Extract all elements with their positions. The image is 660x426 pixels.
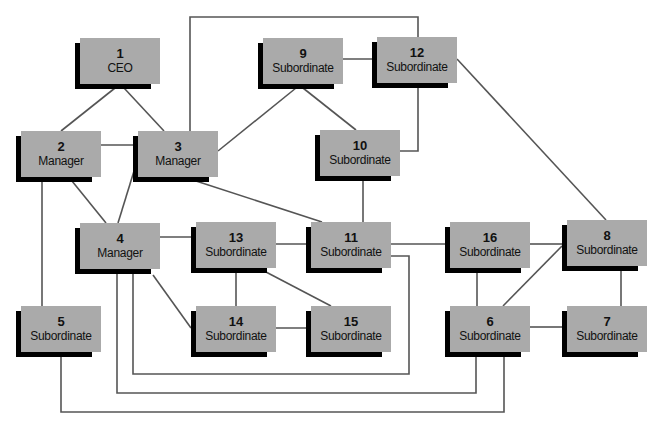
node-9: 9Subordinate bbox=[263, 38, 343, 84]
link-1-2 bbox=[61, 88, 115, 131]
node-box: 2Manager bbox=[21, 131, 101, 177]
node-box: 1CEO bbox=[80, 38, 160, 84]
node-role: Subordinate bbox=[329, 153, 390, 167]
node-16: 16Subordinate bbox=[450, 222, 530, 268]
node-number: 13 bbox=[229, 231, 243, 245]
node-box: 12Subordinate bbox=[377, 37, 457, 83]
node-14: 14Subordinate bbox=[196, 306, 276, 352]
node-4: 4Manager bbox=[80, 223, 160, 269]
node-role: Manager bbox=[38, 154, 83, 168]
node-box: 15Subordinate bbox=[311, 306, 391, 352]
link-2-4 bbox=[72, 181, 106, 223]
node-2: 2Manager bbox=[21, 131, 101, 177]
node-role: Subordinate bbox=[386, 60, 447, 74]
node-11: 11Subordinate bbox=[311, 222, 391, 268]
node-number: 3 bbox=[174, 140, 181, 154]
node-box: 5Subordinate bbox=[21, 306, 101, 352]
node-number: 14 bbox=[229, 315, 243, 329]
node-role: Subordinate bbox=[272, 61, 333, 75]
node-box: 10Subordinate bbox=[320, 130, 400, 176]
link-3-11 bbox=[196, 181, 322, 222]
node-number: 6 bbox=[486, 315, 493, 329]
node-role: Subordinate bbox=[459, 245, 520, 259]
node-number: 11 bbox=[344, 231, 358, 245]
node-7: 7Subordinate bbox=[567, 306, 647, 352]
node-role: Subordinate bbox=[576, 329, 637, 343]
node-13: 13Subordinate bbox=[196, 222, 276, 268]
node-8: 8Subordinate bbox=[567, 220, 647, 266]
node-10: 10Subordinate bbox=[320, 130, 400, 176]
node-number: 2 bbox=[57, 140, 64, 154]
node-role: Subordinate bbox=[320, 245, 381, 259]
node-number: 15 bbox=[344, 315, 358, 329]
link-4-6 bbox=[117, 273, 476, 393]
link-5-6 bbox=[61, 356, 504, 412]
node-box: 14Subordinate bbox=[196, 306, 276, 352]
node-number: 7 bbox=[603, 315, 610, 329]
node-role: Manager bbox=[97, 246, 142, 260]
node-15: 15Subordinate bbox=[311, 306, 391, 352]
link-1-3 bbox=[124, 88, 164, 131]
node-3: 3Manager bbox=[138, 131, 218, 177]
node-number: 8 bbox=[603, 229, 610, 243]
link-9-10 bbox=[303, 88, 356, 130]
link-13-15 bbox=[266, 272, 331, 306]
node-box: 6Subordinate bbox=[450, 306, 530, 352]
node-box: 3Manager bbox=[138, 131, 218, 177]
node-role: Subordinate bbox=[205, 245, 266, 259]
node-box: 13Subordinate bbox=[196, 222, 276, 268]
node-role: Manager bbox=[155, 154, 200, 168]
node-box: 16Subordinate bbox=[450, 222, 530, 268]
node-number: 5 bbox=[57, 315, 64, 329]
node-1: 1CEO bbox=[80, 38, 160, 84]
link-4-14 bbox=[153, 275, 191, 328]
node-number: 4 bbox=[116, 232, 123, 246]
node-box: 11Subordinate bbox=[311, 222, 391, 268]
node-12: 12Subordinate bbox=[377, 37, 457, 83]
node-role: Subordinate bbox=[576, 243, 637, 257]
node-role: CEO bbox=[107, 61, 132, 75]
link-3-9 bbox=[218, 88, 296, 151]
node-5: 5Subordinate bbox=[21, 306, 101, 352]
node-role: Subordinate bbox=[459, 329, 520, 343]
node-box: 4Manager bbox=[80, 223, 160, 269]
link-12-8 bbox=[457, 59, 606, 220]
node-box: 9Subordinate bbox=[263, 38, 343, 84]
node-number: 1 bbox=[116, 47, 123, 61]
link-12-10 bbox=[400, 87, 418, 151]
node-number: 10 bbox=[353, 139, 367, 153]
node-role: Subordinate bbox=[30, 329, 91, 343]
node-box: 7Subordinate bbox=[567, 306, 647, 352]
node-6: 6Subordinate bbox=[450, 306, 530, 352]
node-role: Subordinate bbox=[205, 329, 266, 343]
node-role: Subordinate bbox=[320, 329, 381, 343]
node-number: 16 bbox=[483, 231, 497, 245]
node-box: 8Subordinate bbox=[567, 220, 647, 266]
node-number: 9 bbox=[299, 47, 306, 61]
node-number: 12 bbox=[410, 46, 424, 60]
